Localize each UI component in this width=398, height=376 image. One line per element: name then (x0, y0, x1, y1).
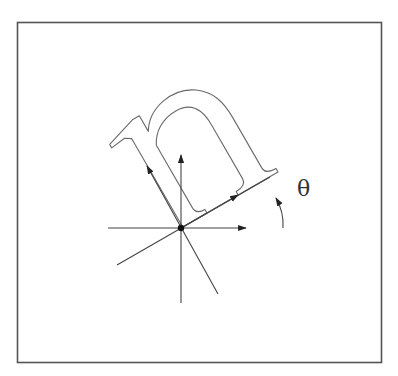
origin-point (178, 225, 184, 231)
rotation-arc (276, 198, 283, 228)
rotated-x-axis (181, 195, 238, 228)
frame (18, 23, 382, 363)
theta-label: θ (297, 176, 310, 201)
rotation-diagram: θ (0, 0, 398, 376)
rotated-letter-n (104, 68, 278, 238)
